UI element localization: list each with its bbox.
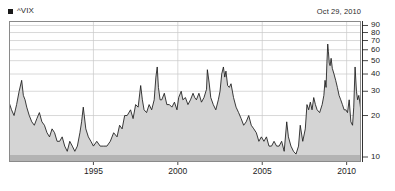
date-stamp: Oct 29, 2010 [317, 7, 361, 16]
y-axis-tick-label: 70 [371, 37, 380, 45]
x-axis-tick-label: 1995 [84, 167, 103, 176]
chart-legend: ^VIX [8, 7, 34, 15]
y-axis-tick-label: 40 [371, 70, 380, 78]
square-marker-icon [8, 9, 13, 14]
vix-chart: ^VIX Oct 29, 2010 102030405060708090 199… [0, 0, 395, 191]
y-axis-tick-label: 60 [371, 46, 380, 54]
x-axis-tick-label: 2000 [168, 167, 187, 176]
y-axis-tick-label: 50 [371, 57, 380, 65]
y-axis-tick-label: 90 [371, 21, 380, 29]
y-axis-tick-label: 10 [371, 153, 380, 161]
legend-label: ^VIX [17, 7, 34, 15]
chart-canvas [9, 21, 361, 162]
x-axis-tick-label: 2005 [253, 167, 272, 176]
bottom-band [9, 155, 361, 162]
plot-area [9, 21, 361, 162]
x-axis-tick-label: 2010 [337, 167, 356, 176]
y-axis-tick-label: 80 [371, 29, 380, 37]
y-axis-tick-label: 20 [371, 112, 380, 120]
y-axis-tick-label: 30 [371, 87, 380, 95]
series-area-fill [9, 44, 361, 162]
